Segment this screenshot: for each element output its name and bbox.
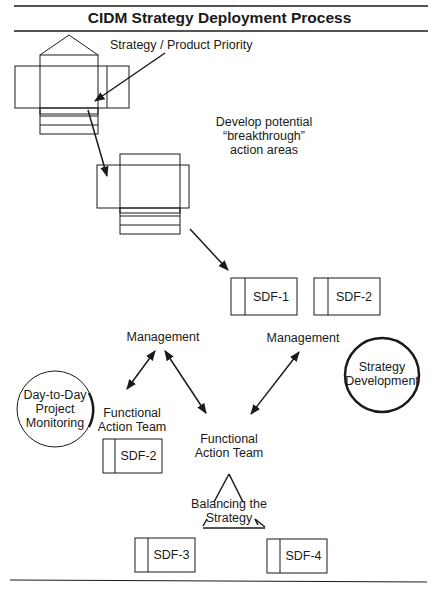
sdf1-label: SDF-1: [245, 290, 297, 304]
sdf2-left-label: SDF-2: [115, 449, 162, 463]
day-line-2: Project: [15, 402, 95, 416]
sdf3-label: SDF-3: [148, 548, 195, 562]
arrow-management-left-to-fat-center: [165, 351, 206, 413]
balancing-line-2: Strategy: [189, 511, 269, 525]
day-to-day-label: Day-to-Day Project Monitoring: [15, 388, 95, 430]
strategy-priority-label: Strategy / Product Priority: [110, 38, 252, 52]
bottom-rule: [10, 580, 427, 582]
management-right-label: Management: [258, 331, 348, 345]
fat-left-line-1: Functional: [92, 406, 172, 420]
balancing-line-1: Balancing the: [189, 497, 269, 511]
strategy-dev-line-2: Development: [342, 374, 422, 388]
day-line-1: Day-to-Day: [15, 388, 95, 402]
fat-left-label: Functional Action Team: [92, 406, 172, 434]
sdf2-top-label: SDF-2: [328, 290, 380, 304]
develop-line-2: “breakthrough”: [204, 129, 324, 143]
fat-center-line-2: Action Team: [189, 446, 269, 460]
arrow-hoq2-to-sdf1: [190, 229, 228, 270]
arrow-priority-to-hoq: [95, 53, 165, 101]
develop-line-1: Develop potential: [204, 115, 324, 129]
balancing-label: Balancing the Strategy: [189, 497, 269, 525]
sdf4-label: SDF-4: [280, 549, 327, 563]
management-left-label: Management: [118, 330, 208, 344]
fat-center-label: Functional Action Team: [189, 432, 269, 460]
arrow-management-left-to-fat-left: [127, 351, 155, 389]
strategy-dev-line-1: Strategy: [342, 360, 422, 374]
strategy-development-label: Strategy Development: [342, 360, 422, 388]
page-title: CIDM Strategy Deployment Process: [0, 9, 439, 27]
develop-areas-label: Develop potential “breakthrough” action …: [204, 115, 324, 157]
fat-center-line-1: Functional: [189, 432, 269, 446]
develop-line-3: action areas: [204, 143, 324, 157]
house-of-quality-middle: [97, 154, 189, 234]
day-line-3: Monitoring: [15, 416, 95, 430]
arrow-management-right-to-fat-center: [251, 352, 299, 414]
fat-left-line-2: Action Team: [92, 420, 172, 434]
